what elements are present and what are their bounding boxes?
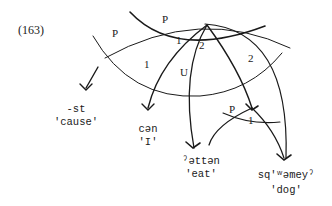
- label-one-top: 1: [176, 35, 182, 46]
- label-one-left: 1: [144, 59, 150, 70]
- node-i-form: cən: [130, 124, 166, 135]
- node-eat-gloss: 'eat': [178, 169, 224, 180]
- label-p-lower: P: [229, 104, 235, 115]
- label-two-right: 2: [248, 53, 254, 64]
- label-p-top: P: [162, 14, 168, 25]
- example-number: (163): [18, 23, 44, 38]
- label-one-lower: 1: [248, 115, 254, 126]
- arc-to-lower: [207, 25, 252, 108]
- arc-lower-to-dog: [252, 108, 284, 158]
- node-eat-form: ˀəttən: [178, 156, 224, 167]
- label-two-top: 2: [199, 40, 205, 51]
- node-i-gloss: 'I': [130, 137, 166, 148]
- label-p-left: P: [112, 28, 118, 39]
- node-dog-gloss: 'dog': [264, 185, 308, 196]
- label-u: U: [180, 67, 188, 78]
- node-dog-form: sq'ʷəmeyˀ: [254, 170, 318, 181]
- node-cause-gloss: 'cause': [50, 117, 102, 128]
- dependency-diagram: (163) P P 1 1 2 U 2 P 1 -st 'cause' cən …: [0, 0, 332, 206]
- node-cause-form: -st: [56, 104, 96, 115]
